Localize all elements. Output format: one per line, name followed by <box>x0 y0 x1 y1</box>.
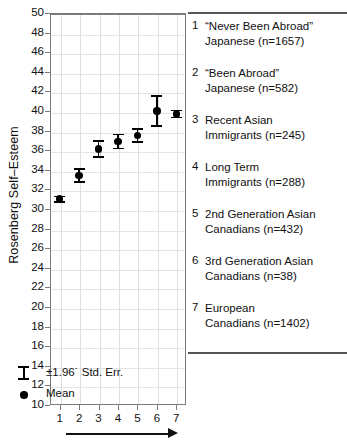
legend-item: 1“Never Been Abroad” Japanese (n=1657) <box>188 19 347 48</box>
chart-figure: Rosenberg Self–Esteem 1“Never Been Abroa… <box>0 0 347 445</box>
legend-item: 4Long Term Immigrants (n=288) <box>188 160 347 189</box>
gridline-horizontal <box>51 172 185 173</box>
gridline-vertical <box>61 15 62 404</box>
x-tick-mark <box>176 405 177 410</box>
x-tick-mark <box>118 405 119 410</box>
plot-area <box>50 13 186 405</box>
legend-item-number: 2 <box>188 66 205 78</box>
mean-data-point[interactable] <box>173 110 181 118</box>
legend-item-number: 7 <box>188 301 205 313</box>
y-tick-label: 48 <box>14 27 44 39</box>
y-tick-mark <box>45 229 50 230</box>
gridline-horizontal <box>51 231 185 232</box>
gridline-horizontal <box>51 270 185 271</box>
error-bar-cap-upper <box>132 128 143 130</box>
legend-item: 3Recent Asian Immigrants (n=245) <box>188 113 347 142</box>
gridline-horizontal <box>51 113 185 114</box>
legend-item-label: Recent Asian Immigrants (n=245) <box>205 113 305 142</box>
error-bar-cap-upper <box>113 134 124 136</box>
gridline-horizontal <box>51 54 185 55</box>
x-tick-label: 3 <box>89 413 109 425</box>
y-tick-label: 22 <box>14 281 44 293</box>
error-bar-cap-lower <box>113 148 124 150</box>
legend-item-label: Long Term Immigrants (n=288) <box>205 160 305 189</box>
y-tick-mark <box>45 170 50 171</box>
y-tick-label: 34 <box>14 164 44 176</box>
y-tick-label: 36 <box>14 144 44 156</box>
y-tick-label: 50 <box>14 7 44 19</box>
x-tick-mark <box>99 405 100 410</box>
legend-item-label: European Canadians (n=1402) <box>205 301 310 330</box>
y-tick-mark <box>45 405 50 406</box>
y-tick-label: 20 <box>14 301 44 313</box>
y-tick-mark <box>45 91 50 92</box>
x-tick-label: 5 <box>127 413 147 425</box>
y-tick-mark <box>45 346 50 347</box>
error-bar-cap-lower <box>74 181 85 183</box>
y-tick-label: 26 <box>14 242 44 254</box>
y-tick-label: 40 <box>14 105 44 117</box>
error-bar-cap-upper <box>93 140 104 142</box>
legend-item-number: 3 <box>188 113 205 125</box>
gridline-vertical <box>158 15 159 404</box>
error-bar-cap-lower <box>132 141 143 143</box>
y-tick-label: 14 <box>14 360 44 372</box>
x-tick-label: 1 <box>50 413 70 425</box>
x-tick-mark <box>137 405 138 410</box>
y-tick-label: 46 <box>14 46 44 58</box>
mean-data-point[interactable] <box>114 138 122 146</box>
y-tick-label: 28 <box>14 223 44 235</box>
legend-item-label: “Never Been Abroad” Japanese (n=1657) <box>205 19 313 48</box>
x-tick-label: 7 <box>166 413 186 425</box>
gridline-horizontal <box>51 191 185 192</box>
legend-item: 2“Been Abroad” Japanese (n=582) <box>188 66 347 95</box>
x-tick-mark <box>60 405 61 410</box>
legend-item-number: 1 <box>188 19 205 31</box>
x-tick-label: 2 <box>69 413 89 425</box>
legend-item-number: 4 <box>188 160 205 172</box>
gridline-horizontal <box>51 309 185 310</box>
error-bar-cap-upper <box>151 95 162 97</box>
gridline-horizontal <box>51 74 185 75</box>
y-tick-label: 12 <box>14 379 44 391</box>
y-tick-mark <box>45 131 50 132</box>
gridline-horizontal <box>51 250 185 251</box>
gridline-horizontal <box>51 348 185 349</box>
legend-item-number: 5 <box>188 207 205 219</box>
y-tick-mark <box>45 385 50 386</box>
y-tick-mark <box>45 327 50 328</box>
legend-item-label: 3rd Generation Asian Canadians (n=38) <box>205 254 313 283</box>
gridline-horizontal <box>51 289 185 290</box>
y-tick-mark <box>45 248 50 249</box>
y-tick-label: 30 <box>14 203 44 215</box>
legend-item: 52nd Generation Asian Canadians (n=432) <box>188 207 347 236</box>
y-tick-label: 10 <box>14 399 44 411</box>
y-tick-mark <box>45 72 50 73</box>
y-tick-label: 38 <box>14 125 44 137</box>
y-tick-mark <box>45 366 50 367</box>
mean-data-point[interactable] <box>153 107 161 115</box>
x-tick-mark <box>157 405 158 410</box>
y-tick-mark <box>45 189 50 190</box>
y-tick-mark <box>45 150 50 151</box>
gridline-horizontal <box>51 93 185 94</box>
y-tick-label: 18 <box>14 321 44 333</box>
y-tick-label: 16 <box>14 340 44 352</box>
legend-item-label: 2nd Generation Asian Canadians (n=432) <box>205 207 316 236</box>
y-tick-label: 44 <box>14 66 44 78</box>
x-axis-arrow-line <box>66 433 170 435</box>
legend-item: 7European Canadians (n=1402) <box>188 301 347 330</box>
gridline-vertical <box>177 15 178 404</box>
error-bar-cap-lower <box>93 156 104 158</box>
legend-key-errorbar-label: ±1.96˙ Std. Err. <box>46 367 123 379</box>
y-tick-label: 24 <box>14 262 44 274</box>
y-tick-mark <box>45 52 50 53</box>
legend-item-label: “Been Abroad” Japanese (n=582) <box>205 66 298 95</box>
y-tick-mark <box>45 268 50 269</box>
y-tick-mark <box>45 111 50 112</box>
y-tick-label: 32 <box>14 183 44 195</box>
gridline-horizontal <box>51 211 185 212</box>
gridline-vertical <box>138 15 139 404</box>
y-tick-mark <box>45 209 50 210</box>
gridline-vertical <box>100 15 101 404</box>
